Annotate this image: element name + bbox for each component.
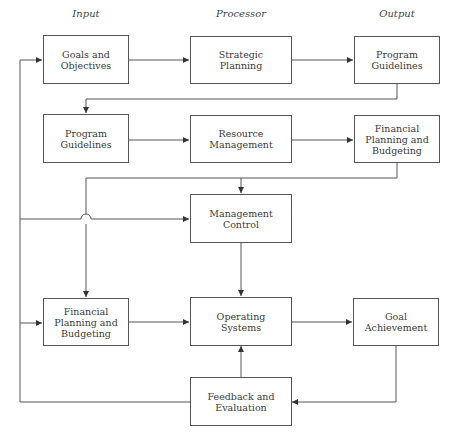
box-operating-systems: Operating Systems bbox=[190, 297, 292, 346]
box-resource-management: Resource Management bbox=[190, 115, 292, 163]
box-financial-planning-input: Financial Planning and Budgeting bbox=[43, 298, 129, 346]
box-feedback-evaluation: Feedback and Evaluation bbox=[190, 377, 292, 426]
arrow-loop-to-management bbox=[20, 214, 189, 219]
box-goals-objectives: Goals and Objectives bbox=[43, 35, 129, 84]
box-strategic-planning: Strategic Planning bbox=[190, 36, 292, 84]
box-management-control: Management Control bbox=[190, 194, 292, 243]
box-goal-achievement: Goal Achievement bbox=[353, 298, 439, 346]
arrow-guidelines-wrap bbox=[86, 84, 397, 113]
box-program-guidelines-output: Program Guidelines bbox=[354, 36, 440, 84]
arrow-goal-to-feedback bbox=[292, 346, 396, 402]
box-financial-planning-output: Financial Planning and Budgeting bbox=[354, 115, 440, 163]
box-program-guidelines-input: Program Guidelines bbox=[43, 114, 129, 163]
